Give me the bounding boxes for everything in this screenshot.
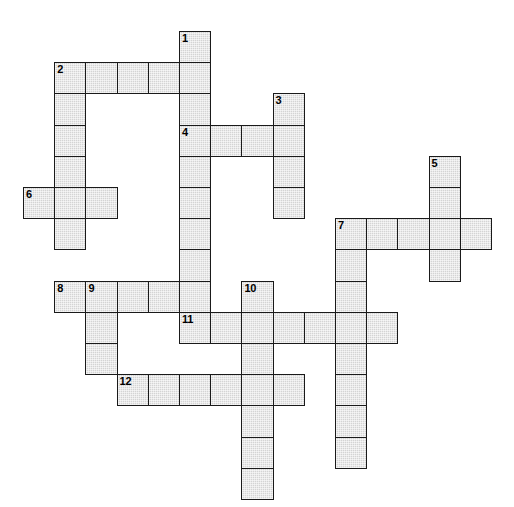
crossword-cell[interactable]: 3 — [273, 93, 305, 125]
crossword-cell[interactable] — [179, 374, 211, 406]
crossword-cell[interactable] — [241, 343, 273, 375]
crossword-cell[interactable] — [273, 187, 305, 219]
crossword-cell[interactable] — [241, 468, 273, 500]
crossword-cell[interactable] — [179, 281, 211, 313]
crossword-cell[interactable] — [85, 62, 117, 94]
crossword-cell[interactable] — [54, 125, 86, 157]
crossword-cell[interactable]: 11 — [179, 312, 211, 344]
clue-number-3: 3 — [276, 94, 282, 107]
crossword-cell[interactable]: 2 — [54, 62, 86, 94]
crossword-cell[interactable] — [366, 312, 398, 344]
crossword-cell[interactable] — [179, 62, 211, 94]
crossword-cell[interactable] — [273, 312, 305, 344]
clue-number-4: 4 — [182, 126, 188, 139]
crossword-cell[interactable]: 6 — [23, 187, 55, 219]
crossword-cell[interactable]: 5 — [429, 156, 461, 188]
crossword-grid: 123456789101112 — [0, 0, 514, 507]
crossword-cell[interactable] — [54, 93, 86, 125]
clue-number-7: 7 — [338, 219, 344, 232]
crossword-cell[interactable] — [148, 281, 180, 313]
crossword-cell[interactable] — [335, 281, 367, 313]
crossword-cell[interactable] — [273, 374, 305, 406]
clue-number-11: 11 — [182, 313, 193, 326]
crossword-cell[interactable] — [241, 125, 273, 157]
crossword-cell[interactable] — [335, 312, 367, 344]
crossword-cell[interactable] — [148, 374, 180, 406]
clue-number-8: 8 — [57, 282, 63, 295]
crossword-cell[interactable] — [335, 374, 367, 406]
crossword-cell[interactable]: 8 — [54, 281, 86, 313]
clue-number-2: 2 — [57, 63, 63, 76]
clue-number-5: 5 — [432, 157, 438, 170]
crossword-cell[interactable] — [460, 218, 492, 250]
crossword-cell[interactable] — [241, 437, 273, 469]
crossword-cell[interactable]: 4 — [179, 125, 211, 157]
crossword-cell[interactable] — [85, 187, 117, 219]
crossword-cell[interactable] — [85, 312, 117, 344]
crossword-cell[interactable] — [179, 156, 211, 188]
crossword-cell[interactable] — [241, 405, 273, 437]
crossword-cell[interactable] — [397, 218, 429, 250]
clue-number-12: 12 — [120, 375, 132, 388]
crossword-cell[interactable] — [179, 187, 211, 219]
crossword-cell[interactable] — [85, 343, 117, 375]
crossword-cell[interactable]: 10 — [241, 281, 273, 313]
crossword-cell[interactable] — [273, 156, 305, 188]
crossword-cell[interactable] — [179, 249, 211, 281]
crossword-cell[interactable] — [304, 312, 336, 344]
crossword-cell[interactable]: 9 — [85, 281, 117, 313]
clue-number-6: 6 — [26, 188, 32, 201]
crossword-cell[interactable] — [429, 218, 461, 250]
crossword-cell[interactable] — [54, 156, 86, 188]
crossword-cell[interactable] — [117, 62, 149, 94]
crossword-cell[interactable] — [335, 405, 367, 437]
crossword-cell[interactable] — [210, 125, 242, 157]
crossword-cell[interactable] — [210, 374, 242, 406]
crossword-cell[interactable] — [429, 187, 461, 219]
crossword-cell[interactable] — [179, 218, 211, 250]
crossword-cell[interactable] — [179, 93, 211, 125]
crossword-cell[interactable]: 7 — [335, 218, 367, 250]
crossword-cell[interactable] — [366, 218, 398, 250]
crossword-cell[interactable] — [241, 374, 273, 406]
crossword-cell[interactable]: 12 — [117, 374, 149, 406]
crossword-cell[interactable] — [148, 62, 180, 94]
crossword-cell[interactable] — [241, 312, 273, 344]
crossword-cell[interactable] — [273, 125, 305, 157]
clue-number-9: 9 — [88, 282, 94, 295]
crossword-cell[interactable]: 1 — [179, 31, 211, 63]
crossword-cell[interactable] — [54, 218, 86, 250]
crossword-cell[interactable] — [335, 249, 367, 281]
crossword-cell[interactable] — [210, 312, 242, 344]
crossword-cell[interactable] — [429, 249, 461, 281]
crossword-cell[interactable] — [335, 437, 367, 469]
clue-number-1: 1 — [182, 32, 188, 45]
crossword-cell[interactable] — [54, 187, 86, 219]
clue-number-10: 10 — [244, 282, 256, 295]
crossword-cell[interactable] — [335, 343, 367, 375]
crossword-cell[interactable] — [117, 281, 149, 313]
